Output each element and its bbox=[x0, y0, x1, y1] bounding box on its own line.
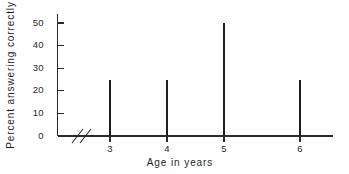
y-tick-label-0: 0 bbox=[38, 130, 44, 141]
x-tick-label-5: 5 bbox=[221, 143, 227, 154]
x-tick-label-6: 6 bbox=[297, 143, 303, 154]
y-tick-label-30: 30 bbox=[33, 62, 44, 73]
y-tick-label-50: 50 bbox=[33, 17, 44, 28]
x-axis-title: Age in years bbox=[147, 157, 213, 168]
y-axis-title: Percent answering correctly bbox=[5, 1, 16, 149]
percent-answering-correctly-chart: Percent answering correctly 0 10 20 30 4… bbox=[0, 0, 349, 174]
y-tick-label-20: 20 bbox=[33, 84, 44, 95]
chart-container: Percent answering correctly 0 10 20 30 4… bbox=[0, 0, 349, 174]
y-tick-label-40: 40 bbox=[33, 39, 44, 50]
x-tick-label-3: 3 bbox=[107, 143, 113, 154]
y-tick-label-10: 10 bbox=[33, 107, 44, 118]
x-tick-label-4: 4 bbox=[164, 143, 170, 154]
